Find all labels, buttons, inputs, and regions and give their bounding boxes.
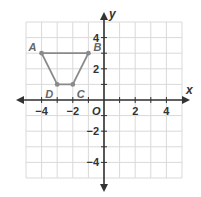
- y-axis-up-arrow-icon: [100, 12, 108, 20]
- y-axis-down-arrow-icon: [100, 184, 108, 192]
- y-tick-label: 2: [93, 63, 99, 75]
- x-tick-label: −2: [67, 105, 80, 117]
- origin-label: O: [92, 105, 101, 117]
- x-tick-label: 2: [132, 105, 138, 117]
- vertex-label-c: C: [77, 88, 86, 100]
- y-tick-label: −2: [86, 125, 99, 137]
- vertex-label-a: A: [28, 41, 37, 53]
- x-axis-label: x: [185, 83, 194, 97]
- vertex-point-a: [39, 51, 44, 56]
- y-tick-label: −4: [86, 156, 99, 168]
- vertex-point-b: [86, 51, 91, 56]
- vertex-label-b: B: [93, 41, 101, 53]
- x-axis-left-arrow-icon: [16, 96, 24, 104]
- x-tick-label: −4: [35, 105, 48, 117]
- labels: −4−22442−2−4xyOABCD: [28, 7, 194, 168]
- vertex-point-d: [55, 82, 60, 87]
- y-axis-label: y: [108, 7, 117, 21]
- x-axis-right-arrow-icon: [182, 96, 190, 104]
- x-tick-label: 4: [163, 105, 170, 117]
- vertex-point-c: [70, 82, 75, 87]
- vertex-label-d: D: [45, 88, 53, 100]
- coordinate-plane: −4−22442−2−4xyOABCD: [0, 0, 201, 197]
